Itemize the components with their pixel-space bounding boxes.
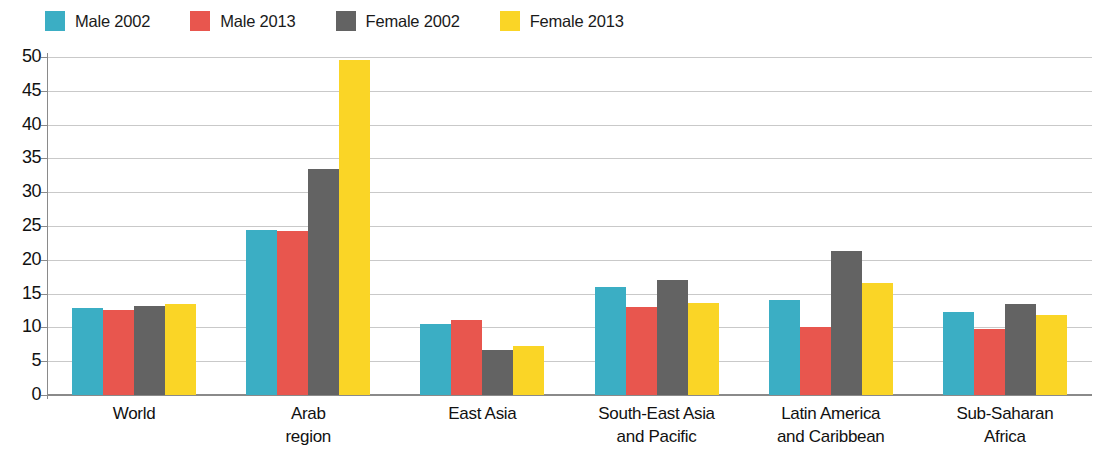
bar (974, 329, 1005, 395)
bar (595, 287, 626, 395)
y-tick-label: 0 (1, 384, 41, 405)
bar-group (744, 57, 918, 395)
x-axis-label-line: and Pacific (569, 425, 743, 448)
bar (513, 346, 544, 395)
x-axis-label-line: Africa (918, 425, 1092, 448)
bar (831, 251, 862, 395)
x-axis-label: Arabregion (221, 402, 395, 448)
x-axis-label-line: World (47, 402, 221, 425)
y-tick-label: 30 (1, 181, 41, 202)
legend-swatch-icon (45, 11, 65, 31)
legend-item: Female 2002 (336, 11, 460, 31)
bar-groups (47, 57, 1092, 395)
bar (657, 280, 688, 395)
x-axis-label-line: Arab (221, 402, 395, 425)
x-axis-label: World (47, 402, 221, 448)
x-axis-label: East Asia (395, 402, 569, 448)
y-tick-label: 25 (1, 215, 41, 236)
bar-group (47, 57, 221, 395)
legend-swatch-icon (190, 11, 210, 31)
bar (688, 303, 719, 395)
bar (482, 350, 513, 395)
legend-swatch-icon (336, 11, 356, 31)
chart-legend: Male 2002Male 2013Female 2002Female 2013 (45, 8, 664, 34)
bar (769, 300, 800, 395)
y-tick-label: 40 (1, 114, 41, 135)
x-axis-labels: WorldArabregionEast AsiaSouth-East Asiaa… (47, 402, 1092, 448)
x-axis-label-line: Latin America (744, 402, 918, 425)
bar (800, 327, 831, 395)
bar-group (395, 57, 569, 395)
x-axis-label-line: and Caribbean (744, 425, 918, 448)
bar-group (918, 57, 1092, 395)
x-axis-label-line: region (221, 425, 395, 448)
bar (103, 310, 134, 395)
gridline (47, 395, 1092, 396)
bar (72, 308, 103, 395)
y-tick-label: 15 (1, 283, 41, 304)
x-axis-label: South-East Asiaand Pacific (569, 402, 743, 448)
x-axis-label-line: South-East Asia (569, 402, 743, 425)
x-axis-label: Latin Americaand Caribbean (744, 402, 918, 448)
legend-item: Male 2013 (190, 11, 295, 31)
bar (1036, 315, 1067, 395)
legend-swatch-icon (500, 11, 520, 31)
legend-label: Female 2013 (530, 12, 624, 31)
x-axis-label-line: East Asia (395, 402, 569, 425)
bar (420, 324, 451, 395)
bar (451, 320, 482, 395)
bar-group (221, 57, 395, 395)
bar (165, 304, 196, 395)
bar (246, 230, 277, 395)
bar (943, 312, 974, 395)
chart-plot-area: 05101520253035404550 (47, 57, 1092, 395)
legend-label: Male 2013 (220, 12, 295, 31)
x-axis-label: Sub-SaharanAfrica (918, 402, 1092, 448)
y-tick-label: 20 (1, 249, 41, 270)
bar (134, 306, 165, 395)
y-tick-label: 50 (1, 46, 41, 67)
bar (1005, 304, 1036, 395)
legend-label: Female 2002 (366, 12, 460, 31)
bar (339, 60, 370, 395)
bar-group (569, 57, 743, 395)
legend-item: Female 2013 (500, 11, 624, 31)
legend-label: Male 2002 (75, 12, 150, 31)
bar (277, 231, 308, 395)
bar (862, 283, 893, 395)
y-tick-label: 10 (1, 316, 41, 337)
bar (308, 169, 339, 395)
x-axis-label-line: Sub-Saharan (918, 402, 1092, 425)
bar (626, 307, 657, 395)
y-tick-label: 35 (1, 147, 41, 168)
legend-item: Male 2002 (45, 11, 150, 31)
y-tick-label: 5 (1, 350, 41, 371)
y-tick-label: 45 (1, 80, 41, 101)
